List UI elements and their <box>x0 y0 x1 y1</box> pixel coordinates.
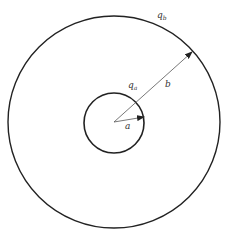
inner-charge-label: qa <box>128 80 138 91</box>
radius-a-label: a <box>125 121 130 131</box>
inner-shell-circle <box>84 93 144 153</box>
outer-charge-label: qb <box>157 10 167 21</box>
radius-b-label: b <box>165 79 171 89</box>
radius-b-arrow <box>114 52 192 122</box>
concentric-shells-diagram: qb qa b a <box>0 0 225 236</box>
